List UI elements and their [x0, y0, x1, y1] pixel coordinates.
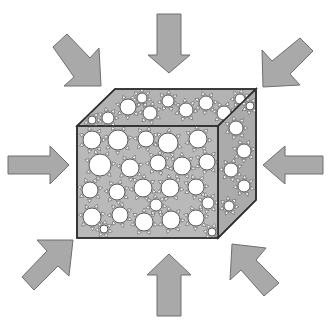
pore-icon	[189, 130, 207, 148]
pore-icon	[88, 116, 96, 124]
compression-diagram	[0, 0, 332, 326]
arrow-top-left-icon	[53, 34, 101, 86]
pore-icon	[112, 207, 128, 223]
pore-icon	[135, 213, 153, 231]
pore-icon	[224, 201, 234, 211]
porous-cube	[77, 88, 259, 241]
pore-icon	[83, 131, 101, 149]
pore-icon	[199, 96, 213, 110]
arrow-bottom-left-icon	[22, 240, 73, 290]
pore-icon	[89, 154, 111, 176]
pore-icon	[237, 144, 251, 158]
pore-icon	[246, 102, 254, 110]
pore-icon	[150, 155, 166, 171]
arrow-bottom-right-icon	[230, 244, 279, 296]
pore-icon	[161, 179, 179, 197]
pore-icon	[208, 228, 216, 236]
arrow-right-icon	[263, 146, 323, 184]
pore-icon	[137, 93, 147, 103]
pore-icon	[109, 184, 125, 200]
pore-icon	[143, 106, 157, 120]
pore-icon	[100, 225, 108, 233]
pore-icon	[162, 211, 180, 229]
pore-icon	[202, 197, 214, 209]
pore-icon	[224, 163, 238, 177]
arrow-top-right-icon	[262, 38, 313, 87]
pore-icon	[150, 199, 162, 211]
pore-icon	[82, 182, 98, 198]
pore-icon	[229, 121, 243, 135]
pore-icon	[199, 154, 215, 170]
pore-icon	[121, 159, 139, 177]
pore-icon	[158, 133, 178, 153]
arrow-top-icon	[148, 14, 190, 73]
pore-icon	[179, 103, 193, 117]
diagram-canvas	[0, 0, 332, 326]
pore-icon	[188, 179, 204, 195]
arrow-left-icon	[8, 146, 69, 184]
pore-icon	[108, 130, 128, 150]
pore-icon	[188, 210, 204, 226]
pore-icon	[173, 157, 191, 175]
pore-icon	[238, 180, 250, 192]
pore-icon	[120, 99, 136, 115]
pore-icon	[102, 112, 114, 124]
arrow-bottom-icon	[147, 254, 191, 316]
pore-icon	[162, 95, 174, 107]
pore-icon	[134, 179, 152, 197]
pore-icon	[138, 131, 154, 147]
